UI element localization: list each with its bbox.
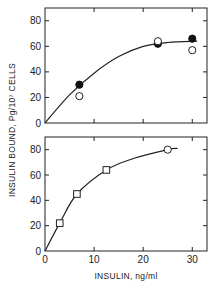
filled-circle-marker	[189, 35, 196, 42]
x-tick-label: 0	[42, 254, 48, 265]
open-circle-marker	[154, 38, 161, 45]
open-circle-marker	[189, 47, 196, 54]
y-tick-label: 40	[30, 195, 42, 206]
plot-frame	[45, 8, 207, 123]
bottom-panel: 0204060800102030	[30, 137, 207, 265]
open-square-marker	[56, 220, 63, 227]
open-circle-marker	[164, 146, 171, 153]
y-tick-label: 20	[30, 220, 42, 231]
plot-frame	[45, 137, 207, 251]
x-tick-label: 30	[187, 254, 199, 265]
y-tick-label: 40	[30, 66, 42, 77]
y-tick-label: 60	[30, 41, 42, 52]
filled-circle-marker	[76, 81, 83, 88]
chart-figure: 020406080 0204060800102030 INSULIN BOUND…	[0, 0, 217, 286]
y-tick-label: 20	[30, 92, 42, 103]
open-circle-marker	[76, 93, 83, 100]
fit-curve	[45, 148, 178, 251]
fit-curve	[45, 41, 197, 123]
top-panel: 020406080	[30, 8, 207, 129]
x-axis-title: INSULIN, ng/ml	[94, 271, 157, 281]
x-tick-label: 10	[89, 254, 101, 265]
y-tick-label: 80	[30, 15, 42, 26]
x-tick-label: 20	[138, 254, 150, 265]
open-square-marker	[103, 167, 110, 174]
open-square-marker	[74, 191, 81, 198]
y-tick-label: 0	[35, 118, 41, 129]
y-tick-label: 80	[30, 144, 42, 155]
y-axis-title: INSULIN BOUND, Pg/10⁷ CELLS	[7, 63, 17, 197]
y-tick-label: 0	[35, 246, 41, 257]
y-tick-label: 60	[30, 170, 42, 181]
